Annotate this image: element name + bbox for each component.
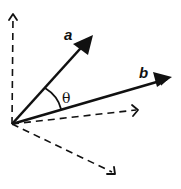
vector-a-label: a — [64, 26, 72, 43]
axis-up-line — [12, 16, 13, 124]
vector-angle-diagram: a b θ — [0, 0, 181, 189]
axis-down-right-line — [12, 124, 112, 172]
vector-arrowheads — [73, 35, 172, 87]
vector-b-label: b — [139, 64, 148, 81]
angle-arc — [45, 88, 61, 109]
vector-b-arrowhead-icon — [153, 72, 172, 87]
axis-down-right-arrowhead-icon — [107, 167, 115, 174]
angle-theta-label: θ — [62, 90, 70, 106]
axis-up-arrowhead-icon — [9, 14, 17, 20]
vector-b-line — [12, 79, 167, 124]
axis-right-line — [12, 110, 136, 124]
vector-a-line — [12, 39, 89, 124]
solid-vectors — [12, 39, 167, 124]
